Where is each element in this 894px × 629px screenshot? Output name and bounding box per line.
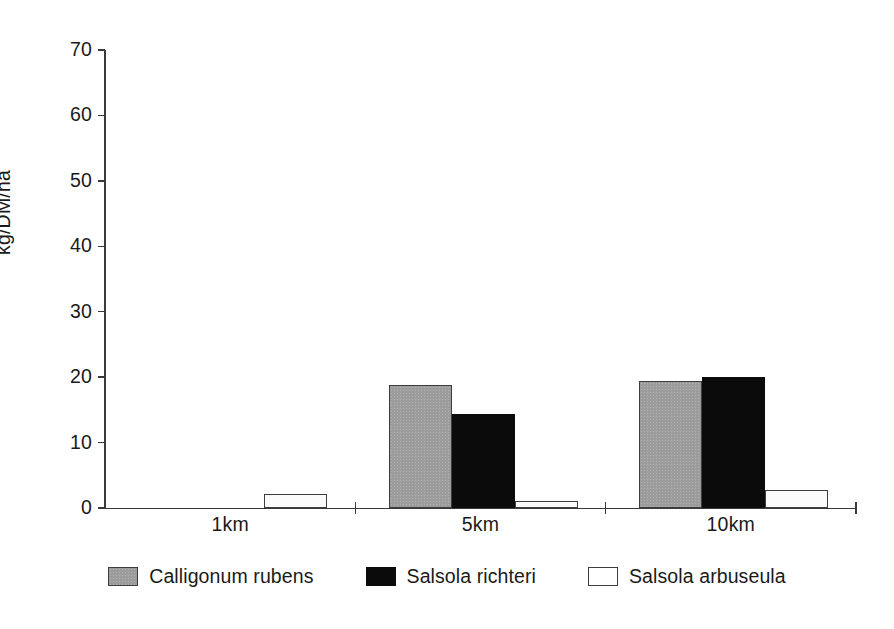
bar-5km-series-1 — [389, 385, 452, 508]
y-axis-tick — [98, 442, 105, 444]
y-axis-tick-label-text: 40 — [52, 236, 92, 256]
y-axis-tick-label-text: 0 — [52, 498, 92, 518]
gray-square-icon — [108, 567, 138, 586]
bar-5km-series-3 — [515, 501, 578, 508]
legend-label-2: Salsola richteri — [407, 567, 536, 587]
black-square-icon — [366, 567, 396, 586]
bar-1km-series-3 — [264, 494, 327, 508]
bar-10km-series-3 — [765, 490, 828, 508]
x-axis-group-label-1km: 1km — [105, 515, 355, 535]
y-axis-tick — [98, 49, 105, 51]
legend-label-1: Calligonum rubens — [149, 567, 313, 587]
y-axis-tick-label-text: 10 — [52, 433, 92, 453]
y-axis-tick-label: 70 — [48, 40, 92, 60]
y-axis-tick-label: 40 — [48, 236, 92, 256]
x-axis-group-label-10km: 10km — [606, 515, 856, 535]
white-square-icon — [588, 567, 618, 586]
y-axis-tick-label: 50 — [48, 171, 92, 191]
bar-5km-series-2 — [452, 414, 515, 508]
plot-area — [105, 50, 856, 508]
y-axis-tick-label: 10 — [48, 433, 92, 453]
chart-legend: Calligonum rubensSalsola richteriSalsola… — [0, 567, 894, 587]
y-axis-tick-label: 20 — [48, 367, 92, 387]
y-axis-tick-label-text: 70 — [52, 40, 92, 60]
legend-item-3: Salsola arbuseula — [588, 567, 786, 587]
y-axis-tick — [98, 311, 105, 313]
y-axis-tick — [98, 507, 105, 509]
y-axis-tick-label-text: 60 — [52, 105, 92, 125]
legend-item-2: Salsola richteri — [366, 567, 536, 587]
y-axis-tick — [98, 180, 105, 182]
legend-label-3: Salsola arbuseula — [629, 567, 786, 587]
y-axis-tick-label: 60 — [48, 105, 92, 125]
y-axis-tick — [98, 376, 105, 378]
x-axis-group-label-5km: 5km — [355, 515, 605, 535]
y-axis-tick-label-text: 20 — [52, 367, 92, 387]
bar-chart: kg/DM/ha 010203040506070 1km5km10km Call… — [0, 0, 894, 629]
y-axis-tick-label: 30 — [48, 302, 92, 322]
y-axis-title: kg/DM/ha — [0, 170, 15, 255]
y-axis-tick-label: 0 — [48, 498, 92, 518]
y-axis-tick — [98, 246, 105, 248]
legend-item-1: Calligonum rubens — [108, 567, 313, 587]
y-axis-tick-label-text: 30 — [52, 302, 92, 322]
y-axis-tick — [98, 115, 105, 117]
bar-10km-series-2 — [702, 377, 765, 508]
y-axis-tick-label-text: 50 — [52, 171, 92, 191]
bar-10km-series-1 — [639, 381, 702, 508]
